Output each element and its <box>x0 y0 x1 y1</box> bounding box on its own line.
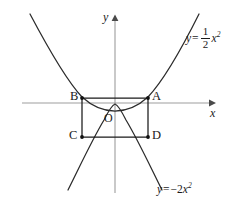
point-label-C: C <box>69 129 77 142</box>
equation-label-upward-parabola: y = 1 2 x 2 <box>186 26 220 51</box>
origin-label: O <box>104 112 113 124</box>
y-axis-arrow-icon <box>112 15 119 22</box>
y-axis-label: y <box>103 11 108 23</box>
equation-top-equals: = <box>192 33 199 45</box>
math-figure-canvas: y x O B A C D y = 1 2 x 2 y = −2 x 2 <box>0 0 251 209</box>
equation-top-lhs: y <box>186 33 191 45</box>
x-axis-label: x <box>210 107 215 119</box>
point-C-marker <box>80 135 84 139</box>
point-A-marker <box>146 96 150 100</box>
equation-label-downward-parabola: y = −2 x 2 <box>157 184 192 196</box>
point-label-D: D <box>152 129 161 142</box>
equation-top-numerator: 1 <box>202 26 210 38</box>
equation-bottom-coefficient: −2 <box>171 184 183 196</box>
equation-bottom-exponent: 2 <box>188 182 192 190</box>
equation-top-denominator: 2 <box>202 39 210 51</box>
point-label-A: A <box>152 90 161 103</box>
equation-bottom-lhs: y <box>157 184 162 196</box>
point-label-B: B <box>70 90 78 103</box>
point-B-marker <box>80 96 84 100</box>
equation-top-fraction: 1 2 <box>201 26 210 51</box>
equation-top-exponent: 2 <box>217 31 221 39</box>
point-D-marker <box>146 135 150 139</box>
equation-bottom-equals: = <box>163 184 170 196</box>
